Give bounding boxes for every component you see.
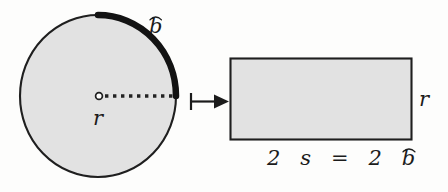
rectangle-shape bbox=[231, 59, 412, 140]
equation-coefficient-right: 2 bbox=[368, 148, 382, 169]
arc-length-label: b bbox=[149, 14, 162, 37]
circle-center-dot bbox=[96, 93, 103, 100]
equation-symbol-b: b bbox=[402, 146, 416, 170]
rectangle-height-label: r bbox=[419, 89, 429, 110]
rectangle-base-equation: 2 s = 2 b bbox=[267, 146, 416, 169]
equation-coefficient-left: 2 bbox=[267, 148, 281, 169]
math-figure: b r r 2 s = 2 b bbox=[0, 0, 448, 192]
arc-label-base: b bbox=[149, 14, 162, 38]
equation-symbol-s: s bbox=[300, 148, 311, 169]
circle-radius-label: r bbox=[93, 108, 103, 129]
transform-arrow-icon bbox=[191, 93, 229, 110]
equation-equals-sign: = bbox=[331, 148, 349, 169]
equation-arc-term: b bbox=[402, 146, 416, 169]
